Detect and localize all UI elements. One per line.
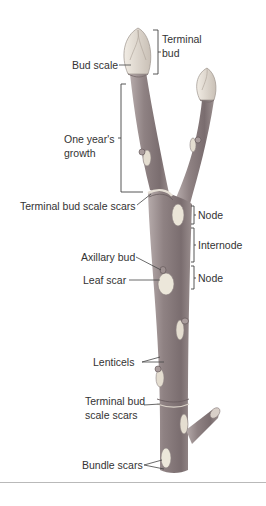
label-terminal-bud-scale-scars-top: Terminal bud scale scars [20,200,136,212]
label-terminal-bud-line2: bud [162,47,180,59]
label-leaf-scar: Leaf scar [83,274,126,286]
label-terminal-bud-scale-scars-bottom-line2: scale scars [85,409,138,421]
label-node-upper: Node [198,209,223,221]
terminal-bud-left [124,28,151,77]
label-terminal-bud-scale-scars-bottom-line1: Terminal bud [85,395,145,407]
label-internode: Internode [198,239,242,251]
label-bundle-scars: Bundle scars [82,459,143,471]
right-branch [176,100,214,204]
label-one-years-growth-line1: One year's [64,133,114,145]
label-node-lower: Node [198,272,223,284]
label-lenticels: Lenticels [93,356,134,368]
label-terminal-bud-line1: Terminal [162,33,202,45]
bottom-divider [0,482,266,483]
label-one-years-growth-line2: growth [64,147,96,159]
left-branch [130,72,170,198]
terminal-bud-right [197,68,216,102]
label-axillary-bud: Axillary bud [81,251,135,263]
label-bud-scale: Bud scale [72,59,118,71]
